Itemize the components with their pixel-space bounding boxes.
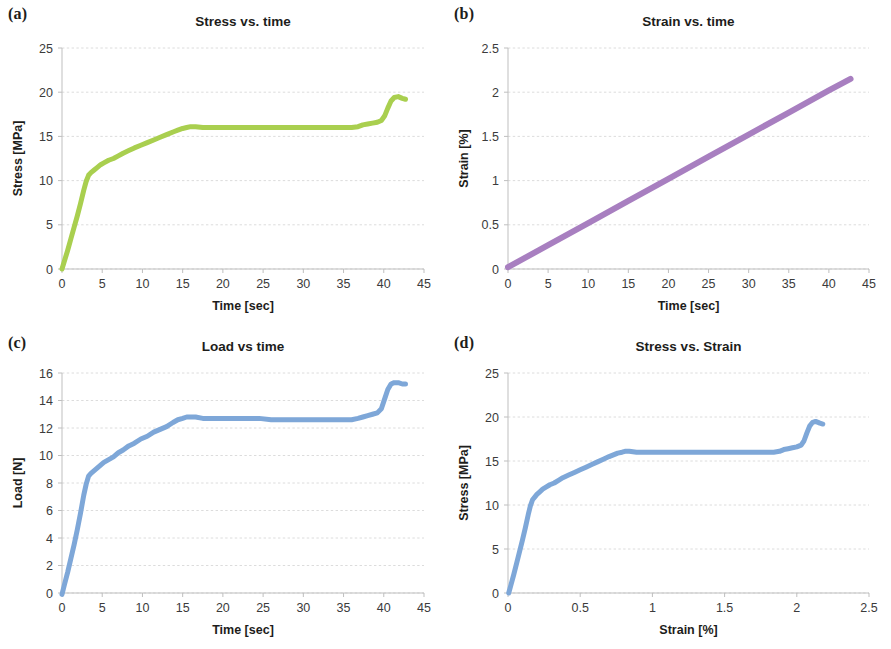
y-axis-title: Stress [MPa] xyxy=(457,445,471,521)
y-tick-label: 10 xyxy=(485,499,499,513)
x-axis-title: Time [sec] xyxy=(212,299,274,313)
panel-a: (a) Stress vs. time051015202505101520253… xyxy=(0,0,446,325)
x-tick-label: 10 xyxy=(581,277,595,291)
x-tick-label: 30 xyxy=(296,277,310,291)
y-tick-label: 12 xyxy=(39,422,53,436)
y-axis-title: Load [N] xyxy=(11,458,25,509)
y-tick-label: 25 xyxy=(39,42,53,56)
y-axis-title: Stress [MPa] xyxy=(11,121,25,197)
x-tick-label: 30 xyxy=(296,601,310,615)
series-line xyxy=(62,383,406,595)
x-tick-label: 1 xyxy=(649,601,656,615)
chart-title: Strain vs. time xyxy=(642,14,735,29)
x-tick-label: 2 xyxy=(793,601,800,615)
y-tick-label: 16 xyxy=(39,367,53,381)
y-tick-label: 10 xyxy=(39,449,53,463)
y-tick-label: 0 xyxy=(46,263,53,277)
y-tick-label: 5 xyxy=(46,218,53,232)
x-tick-label: 45 xyxy=(417,277,431,291)
chart-title: Stress vs. time xyxy=(195,14,291,29)
chart-title: Load vs time xyxy=(202,339,285,354)
x-tick-label: 40 xyxy=(377,601,391,615)
series-line xyxy=(509,421,823,593)
x-tick-label: 1.5 xyxy=(716,601,733,615)
x-tick-label: 30 xyxy=(742,277,756,291)
x-tick-label: 20 xyxy=(216,277,230,291)
x-tick-label: 35 xyxy=(782,277,796,291)
x-tick-label: 20 xyxy=(216,601,230,615)
x-tick-label: 45 xyxy=(417,601,431,615)
x-axis-title: Strain [%] xyxy=(659,623,717,637)
x-tick-label: 40 xyxy=(822,277,836,291)
x-tick-label: 35 xyxy=(337,601,351,615)
y-tick-label: 0.5 xyxy=(482,218,499,232)
x-tick-label: 5 xyxy=(545,277,552,291)
figure-panel-grid: (a) Stress vs. time051015202505101520253… xyxy=(0,0,891,649)
x-tick-label: 0 xyxy=(59,277,66,291)
x-tick-label: 40 xyxy=(377,277,391,291)
x-axis-title: Time [sec] xyxy=(658,299,720,313)
x-tick-label: 15 xyxy=(176,601,190,615)
panel-c: (c) Load vs time024681012141605101520253… xyxy=(0,325,446,649)
series-line xyxy=(62,97,406,269)
y-tick-label: 5 xyxy=(492,543,499,557)
chart-load-vs-time: Load vs time0246810121416051015202530354… xyxy=(0,325,446,649)
y-tick-label: 2.5 xyxy=(482,42,499,56)
y-tick-label: 20 xyxy=(485,411,499,425)
y-tick-label: 1.5 xyxy=(482,130,499,144)
y-tick-label: 0 xyxy=(46,587,53,601)
series-line xyxy=(508,79,851,267)
x-tick-label: 0.5 xyxy=(572,601,589,615)
x-tick-label: 5 xyxy=(99,277,106,291)
y-tick-label: 1 xyxy=(492,174,499,188)
y-tick-label: 0 xyxy=(492,587,499,601)
x-tick-label: 10 xyxy=(135,277,149,291)
chart-strain-vs-time: Strain vs. time00.511.522.50510152025303… xyxy=(446,0,891,325)
x-tick-label: 25 xyxy=(256,277,270,291)
chart-title: Stress vs. Strain xyxy=(636,339,742,354)
x-tick-label: 25 xyxy=(702,277,716,291)
x-tick-label: 0 xyxy=(505,601,512,615)
x-tick-label: 2.5 xyxy=(860,601,877,615)
x-tick-label: 20 xyxy=(661,277,675,291)
y-tick-label: 6 xyxy=(46,504,53,518)
y-tick-label: 15 xyxy=(485,455,499,469)
y-axis-title: Strain [%] xyxy=(457,129,471,187)
chart-stress-vs-strain: Stress vs. Strain051015202500.511.522.5S… xyxy=(446,325,891,649)
x-tick-label: 15 xyxy=(621,277,635,291)
chart-stress-vs-time: Stress vs. time0510152025051015202530354… xyxy=(0,0,446,325)
panel-b: (b) Strain vs. time00.511.522.5051015202… xyxy=(446,0,891,325)
x-tick-label: 25 xyxy=(256,601,270,615)
y-tick-label: 2 xyxy=(492,86,499,100)
x-axis-title: Time [sec] xyxy=(212,623,274,637)
x-tick-label: 35 xyxy=(337,277,351,291)
x-tick-label: 5 xyxy=(99,601,106,615)
x-tick-label: 15 xyxy=(176,277,190,291)
y-tick-label: 15 xyxy=(39,130,53,144)
x-tick-label: 10 xyxy=(135,601,149,615)
x-tick-label: 0 xyxy=(505,277,512,291)
x-tick-label: 45 xyxy=(862,277,876,291)
y-tick-label: 0 xyxy=(492,263,499,277)
y-tick-label: 10 xyxy=(39,174,53,188)
y-tick-label: 20 xyxy=(39,86,53,100)
y-tick-label: 2 xyxy=(46,559,53,573)
panel-d: (d) Stress vs. Strain051015202500.511.52… xyxy=(446,325,891,649)
y-tick-label: 25 xyxy=(485,367,499,381)
y-tick-label: 8 xyxy=(46,477,53,491)
y-tick-label: 4 xyxy=(46,532,53,546)
y-tick-label: 14 xyxy=(39,394,53,408)
x-tick-label: 0 xyxy=(59,601,66,615)
